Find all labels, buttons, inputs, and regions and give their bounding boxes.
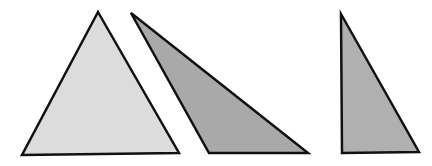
right-triangle [341,14,419,153]
triangles-diagram [0,0,432,166]
